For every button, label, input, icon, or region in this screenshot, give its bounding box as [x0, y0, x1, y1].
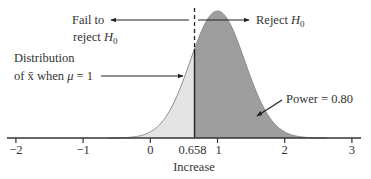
- fail-to-reject-label-line2: reject H0: [73, 30, 118, 46]
- fail-to-reject-region: [108, 49, 194, 138]
- distribution-label-line1: Distribution: [14, 51, 75, 65]
- x-tick-label: 3: [349, 143, 355, 157]
- reject-label: Reject H0: [256, 13, 305, 29]
- x-tick-label: 2: [282, 143, 288, 157]
- power-chart: −2−100.658123 Increase Fail to reject H0…: [0, 0, 371, 179]
- x-tick-label: −1: [76, 143, 89, 157]
- power-label: Power = 0.80: [286, 92, 353, 106]
- power-region: [195, 11, 327, 138]
- x-axis-label: Increase: [173, 160, 215, 174]
- x-tick-label: 1: [215, 143, 221, 157]
- x-tick-label: 0.658: [178, 143, 206, 157]
- distribution-label-line2: of x̄ when μ = 1: [14, 69, 93, 83]
- x-tick-label: −2: [9, 143, 22, 157]
- fail-to-reject-label-line1: Fail to: [72, 13, 104, 27]
- x-tick-label: 0: [147, 143, 153, 157]
- x-axis-ticks: −2−100.658123: [9, 138, 355, 157]
